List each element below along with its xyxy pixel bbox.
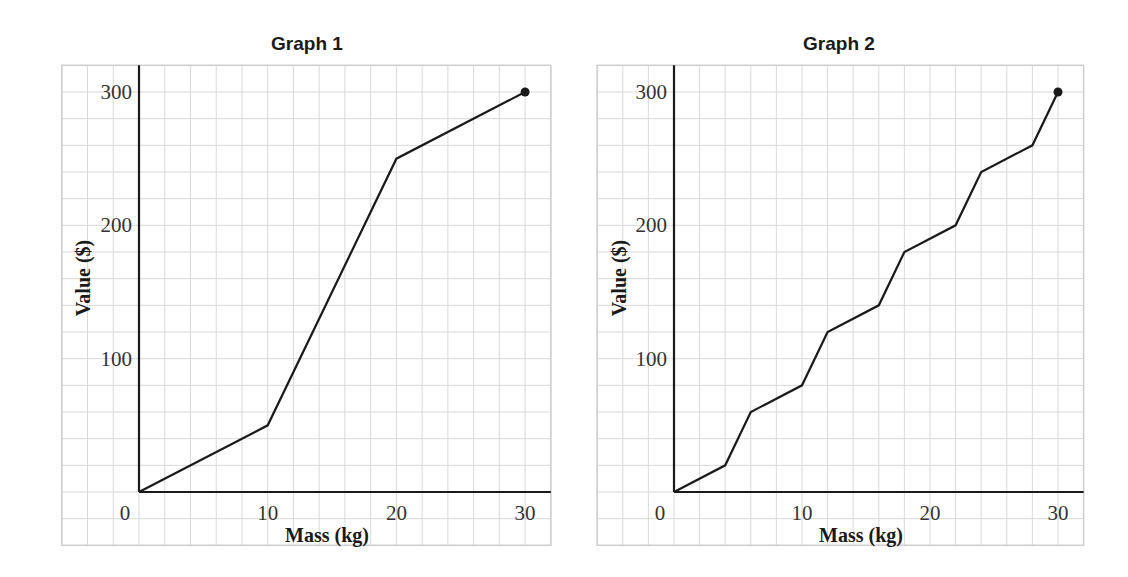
x-axis-label: Mass (kg): [819, 524, 903, 547]
y-tick-label: 300: [101, 80, 133, 104]
y-axis-label: Value ($): [72, 240, 95, 316]
chart-2: 0102030100200300Graph 2Mass (kg)Value ($…: [597, 33, 1083, 547]
y-tick-label: 300: [636, 80, 668, 104]
endpoint-marker: [521, 88, 530, 97]
y-tick-label: 100: [636, 347, 668, 371]
grid: [62, 65, 551, 545]
y-axis-label: Value ($): [608, 240, 631, 316]
x-tick-label: 0: [655, 501, 666, 525]
y-tick-label: 100: [101, 347, 133, 371]
grid: [597, 65, 1083, 545]
y-tick-label: 200: [101, 213, 133, 237]
x-axis-label: Mass (kg): [285, 524, 369, 547]
chart-1: 0102030100200300Graph 1Mass (kg)Value ($…: [62, 33, 551, 547]
x-tick-label: 10: [792, 501, 813, 525]
y-tick-label: 200: [636, 213, 668, 237]
x-tick-label: 30: [1048, 501, 1069, 525]
chart-figure: 0102030100200300Graph 1Mass (kg)Value ($…: [0, 0, 1128, 577]
chart-title: Graph 1: [271, 33, 343, 54]
x-tick-label: 10: [257, 501, 278, 525]
x-tick-label: 0: [120, 501, 131, 525]
data-line: [139, 92, 525, 492]
endpoint-marker: [1054, 88, 1063, 97]
data-line: [674, 92, 1058, 492]
x-tick-label: 20: [386, 501, 407, 525]
x-tick-label: 20: [920, 501, 941, 525]
chart-title: Graph 2: [803, 33, 875, 54]
x-tick-label: 30: [515, 501, 536, 525]
